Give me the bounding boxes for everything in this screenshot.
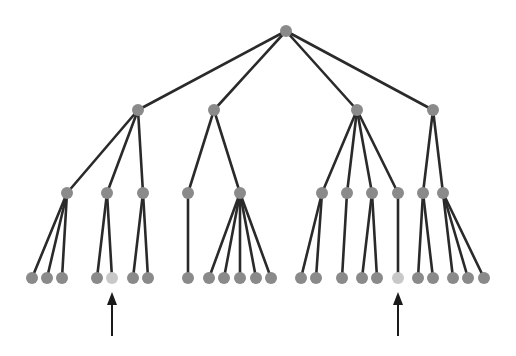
tree-edge <box>423 110 433 193</box>
leaf-node <box>310 272 322 284</box>
internal-node <box>182 187 194 199</box>
leaf-node <box>182 272 194 284</box>
tree-edge <box>209 193 240 278</box>
tree-edge <box>240 193 256 278</box>
internal-node <box>366 187 378 199</box>
internal-node <box>137 187 149 199</box>
internal-node <box>437 187 449 199</box>
internal-node <box>61 187 73 199</box>
leaf-node <box>91 272 103 284</box>
arrows-layer <box>107 292 403 336</box>
tree-edge <box>357 110 398 193</box>
leaf-node <box>127 272 139 284</box>
tree-canvas <box>0 0 516 356</box>
tree-edge <box>286 31 433 110</box>
tree-edge <box>372 193 377 278</box>
leaf-node <box>447 272 459 284</box>
tree-edge <box>362 193 372 278</box>
root-node <box>280 25 292 37</box>
tree-edge <box>107 193 112 278</box>
leaf-node <box>412 272 424 284</box>
internal-node <box>101 187 113 199</box>
leaf-node <box>462 272 474 284</box>
leaf-node <box>478 272 490 284</box>
tree-edge <box>286 31 357 110</box>
leaf-node <box>41 272 53 284</box>
leaf-node <box>336 272 348 284</box>
leaf-node <box>265 272 277 284</box>
leaf-node <box>250 272 262 284</box>
internal-node <box>132 104 144 116</box>
highlighted-leaf-node <box>392 272 404 284</box>
internal-node <box>208 104 220 116</box>
leaf-node <box>56 272 68 284</box>
tree-edge <box>214 110 240 193</box>
tree-diagram <box>0 0 516 356</box>
leaf-node <box>234 272 246 284</box>
leaf-node <box>203 272 215 284</box>
tree-edge <box>188 110 214 193</box>
tree-edge <box>433 110 443 193</box>
tree-edge <box>240 193 271 278</box>
tree-edge <box>138 31 286 110</box>
edges-layer <box>32 31 484 278</box>
internal-node <box>392 187 404 199</box>
tree-edge <box>342 193 347 278</box>
internal-node <box>341 187 353 199</box>
tree-edge <box>224 193 240 278</box>
tree-edge <box>133 193 143 278</box>
internal-node <box>417 187 429 199</box>
up-arrow-icon <box>393 292 403 336</box>
up-arrow-icon <box>107 292 117 336</box>
leaf-node <box>218 272 230 284</box>
tree-edge <box>143 193 148 278</box>
internal-node <box>427 104 439 116</box>
highlighted-leaf-node <box>106 272 118 284</box>
tree-edge <box>107 110 138 193</box>
tree-edge <box>138 110 143 193</box>
tree-edge <box>97 193 107 278</box>
leaf-node <box>427 272 439 284</box>
internal-node <box>316 187 328 199</box>
leaf-node <box>356 272 368 284</box>
leaf-node <box>371 272 383 284</box>
leaf-node <box>295 272 307 284</box>
leaf-node <box>142 272 154 284</box>
internal-node <box>234 187 246 199</box>
leaf-node <box>26 272 38 284</box>
tree-edge <box>214 31 286 110</box>
tree-edge <box>67 110 138 193</box>
tree-edge <box>423 193 433 278</box>
tree-edge <box>418 193 423 278</box>
internal-node <box>351 104 363 116</box>
